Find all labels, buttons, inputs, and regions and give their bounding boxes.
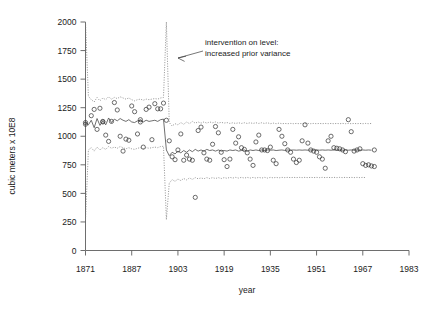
observation-point (118, 134, 122, 138)
observation-point (288, 150, 292, 154)
observation-point (95, 127, 99, 131)
observation-point (274, 162, 278, 166)
y-tick-label: 250 (62, 217, 76, 227)
observation-point (167, 139, 171, 143)
observation-point (133, 110, 137, 114)
observation-point (225, 164, 229, 168)
observation-point (115, 108, 119, 112)
observation-point (161, 101, 165, 105)
y-tick-label: 1500 (58, 74, 77, 84)
observation-point (182, 158, 186, 162)
observation-point (332, 146, 336, 150)
annotation-line-2: increased prior variance (205, 49, 291, 58)
observation-point (335, 146, 339, 150)
observation-point (164, 118, 168, 122)
observation-point (193, 195, 197, 199)
x-tick-label: 1983 (400, 264, 419, 274)
observation-point (323, 166, 327, 170)
observation-point (254, 140, 258, 144)
observation-point (179, 132, 183, 136)
observation-point (173, 158, 177, 162)
kalman-filter-chart: 025050075010001250150017502000 cubic met… (0, 0, 428, 312)
y-tick-label: 1750 (58, 46, 77, 56)
observation-point (306, 141, 310, 145)
observation-point (121, 149, 125, 153)
observation-point (231, 127, 235, 131)
observation-point (112, 100, 116, 104)
observation-point (317, 155, 321, 159)
annotation-line-1: intervention on level: (205, 38, 278, 47)
observation-point (280, 134, 284, 138)
observation-point (144, 107, 148, 111)
observation-point (107, 139, 111, 143)
x-axis-title: year (239, 285, 256, 295)
y-tick-label: 500 (62, 189, 76, 199)
x-tick-marks (86, 251, 410, 256)
observation-point (349, 130, 353, 134)
observation-point (153, 102, 157, 106)
observation-point (372, 164, 376, 168)
observation-point (236, 135, 240, 139)
observation-point (257, 133, 261, 137)
x-tick-labels: 18711887190319191935195119671983 (76, 264, 419, 274)
observation-point (147, 105, 151, 109)
observation-point (372, 148, 376, 152)
observation-point (329, 134, 333, 138)
observation-point (234, 141, 238, 145)
x-tick-label: 1887 (122, 264, 141, 274)
x-tick-label: 1919 (215, 264, 234, 274)
observation-point (104, 133, 108, 137)
y-axis-title: cubic meters x 10E8 (7, 117, 17, 194)
y-tick-labels: 025050075010001250150017502000 (58, 17, 77, 256)
observation-point (228, 157, 232, 161)
observation-point (283, 142, 287, 146)
x-tick-label: 1903 (168, 264, 187, 274)
observation-point (135, 132, 139, 136)
x-tick-label: 1871 (76, 264, 95, 274)
observation-point (222, 158, 226, 162)
y-tick-label: 1000 (58, 131, 77, 141)
observation-point (159, 107, 163, 111)
observation-point (150, 138, 154, 142)
y-tick-label: 2000 (58, 17, 77, 27)
observation-point (326, 139, 330, 143)
y-tick-marks (81, 22, 86, 251)
observation-point (268, 145, 272, 149)
observation-point (277, 127, 281, 131)
observation-point (210, 142, 214, 146)
observation-point (89, 114, 93, 118)
observation-point (184, 153, 188, 157)
y-tick-label: 750 (62, 160, 76, 170)
observation-point (346, 118, 350, 122)
observation-point (130, 104, 134, 108)
observation-point (294, 160, 298, 164)
y-tick-label: 1250 (58, 103, 77, 113)
observation-point (251, 163, 255, 167)
observation-point (303, 123, 307, 127)
observation-point (320, 157, 324, 161)
observation-point (199, 125, 203, 129)
x-axis-group: 18711887190319191935195119671983 year (76, 251, 419, 296)
chart-container: 025050075010001250150017502000 cubic met… (0, 0, 428, 312)
observation-point (98, 106, 102, 110)
intervention-annotation: intervention on level: increased prior v… (178, 38, 291, 61)
annotation-arrow (178, 51, 203, 61)
x-tick-label: 1951 (307, 264, 326, 274)
observation-point (92, 107, 96, 111)
y-axis-group: 025050075010001250150017502000 cubic met… (7, 17, 86, 256)
y-tick-label: 0 (72, 246, 77, 256)
observation-point (216, 131, 220, 135)
observation-point (213, 124, 217, 128)
x-tick-label: 1967 (353, 264, 372, 274)
observation-point (300, 139, 304, 143)
observation-point (248, 157, 252, 161)
x-tick-label: 1935 (261, 264, 280, 274)
observation-point (297, 158, 301, 162)
